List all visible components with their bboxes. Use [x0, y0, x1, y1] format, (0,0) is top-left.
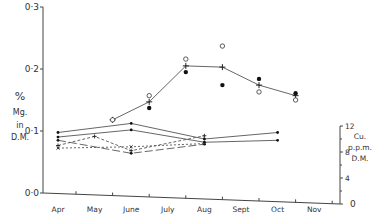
svg-text:%: %	[15, 90, 25, 103]
x-tick-label: Apr	[52, 205, 66, 214]
left-tick-label: 0·2	[25, 64, 39, 74]
left-tick-label: 0·0	[25, 188, 40, 198]
series-cu-series-3	[56, 134, 206, 153]
svg-text:D.M.: D.M.	[11, 133, 29, 142]
series-cu-series-5	[57, 142, 206, 150]
right-tick-label: 4	[345, 174, 350, 183]
x-tick-label: Nov	[307, 205, 322, 214]
axes	[43, 7, 340, 204]
x-tick-label: Oct	[271, 205, 284, 214]
right-axis-label: Cu.p.p.m.D.M.	[348, 132, 372, 163]
x-tick-label: July	[160, 205, 175, 214]
x-tick-label: Sept	[232, 205, 249, 214]
x-tick-label: May	[87, 205, 103, 214]
x-tick-label: Aug	[197, 205, 212, 214]
left-axis-ticks: 0·00·10·20·3	[25, 2, 43, 198]
chart: 0·00·10·20·3 04812 AprMayJuneJulyAugSept…	[0, 0, 377, 219]
svg-text:Mg.: Mg.	[13, 108, 28, 117]
svg-text:p.p.m.: p.p.m.	[348, 143, 372, 152]
svg-text:in: in	[16, 121, 23, 130]
data-series	[56, 44, 299, 155]
svg-text:Cu.: Cu.	[354, 132, 366, 141]
left-axis-label: %Mg.inD.M.	[11, 90, 29, 142]
series-mg-mean	[110, 63, 299, 123]
x-tick-label: June	[122, 205, 140, 214]
svg-text:D.M.: D.M.	[351, 154, 368, 163]
right-tick-label: 0	[350, 199, 356, 209]
left-tick-label: 0·3	[25, 2, 39, 12]
series-mg-open-circles	[110, 44, 297, 122]
right-tick-label: 12	[345, 122, 355, 131]
